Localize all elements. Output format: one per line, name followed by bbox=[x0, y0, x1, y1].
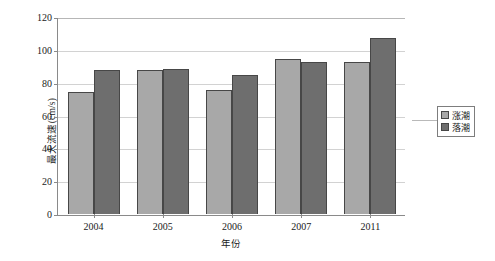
bar-group: 2007 bbox=[267, 18, 336, 214]
bar-涨潮-2005[interactable] bbox=[137, 70, 163, 214]
legend-leader-line bbox=[412, 120, 437, 121]
x-tick-mark bbox=[94, 214, 95, 218]
legend-item-rising[interactable]: 涨潮 bbox=[441, 109, 470, 121]
x-tick-label: 2005 bbox=[153, 221, 173, 232]
x-tick-mark bbox=[370, 214, 371, 218]
legend-item-falling[interactable]: 落潮 bbox=[441, 121, 470, 133]
legend-label-falling: 落潮 bbox=[452, 121, 470, 134]
bar-group: 2011 bbox=[336, 18, 405, 214]
y-tick-label: 80 bbox=[42, 79, 52, 89]
x-tick-label: 2011 bbox=[361, 221, 381, 232]
bar-chart-figure: 最大流速(cm/s) 020406080100120 2004200520062… bbox=[0, 0, 495, 261]
bar-groups: 20042005200620072011 bbox=[59, 18, 405, 214]
bar-落潮-2005[interactable] bbox=[163, 69, 189, 214]
x-tick-label: 2006 bbox=[222, 221, 242, 232]
x-tick-mark bbox=[163, 214, 164, 218]
bar-涨潮-2006[interactable] bbox=[206, 90, 232, 214]
y-tick-label: 120 bbox=[37, 13, 52, 23]
bar-涨潮-2004[interactable] bbox=[68, 92, 94, 215]
y-tick-label: 60 bbox=[42, 112, 52, 122]
y-tick-mark bbox=[54, 182, 58, 183]
legend-swatch-falling-icon bbox=[441, 123, 449, 131]
y-tick-label: 20 bbox=[42, 177, 52, 187]
bar-落潮-2006[interactable] bbox=[232, 75, 258, 214]
plot-area: 020406080100120 20042005200620072011 bbox=[57, 18, 405, 216]
bar-落潮-2007[interactable] bbox=[301, 62, 327, 214]
bar-落潮-2004[interactable] bbox=[94, 70, 120, 214]
bar-group: 2004 bbox=[59, 18, 128, 214]
x-tick-label: 2007 bbox=[291, 221, 311, 232]
legend-swatch-rising-icon bbox=[441, 111, 449, 119]
x-tick-mark bbox=[301, 214, 302, 218]
x-tick-mark bbox=[232, 214, 233, 218]
y-tick-label: 0 bbox=[47, 210, 52, 220]
chart-legend: 涨潮 落潮 bbox=[437, 106, 475, 137]
y-tick-mark bbox=[54, 84, 58, 85]
bar-涨潮-2007[interactable] bbox=[275, 59, 301, 214]
y-tick-label: 100 bbox=[37, 46, 52, 56]
bar-涨潮-2011[interactable] bbox=[344, 62, 370, 214]
x-tick-label: 2004 bbox=[84, 221, 104, 232]
y-tick-mark bbox=[54, 117, 58, 118]
y-tick-mark bbox=[54, 51, 58, 52]
x-axis-title: 年份 bbox=[57, 236, 405, 250]
y-tick-mark bbox=[54, 149, 58, 150]
y-tick-mark bbox=[54, 18, 58, 19]
bar-group: 2006 bbox=[197, 18, 266, 214]
y-tick-mark bbox=[54, 215, 58, 216]
bar-落潮-2011[interactable] bbox=[370, 38, 396, 214]
bar-group: 2005 bbox=[128, 18, 197, 214]
y-tick-label: 40 bbox=[42, 144, 52, 154]
